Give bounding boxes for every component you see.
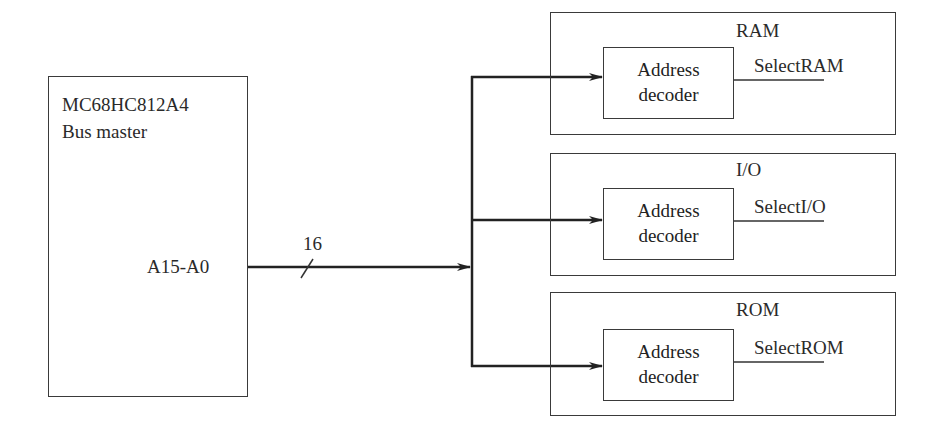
- decoder-label-line1: Address: [604, 57, 733, 82]
- bus-width-slash: [301, 259, 313, 278]
- bus-width-label: 16: [303, 233, 322, 255]
- address-port-label: A15-A0: [147, 256, 209, 278]
- decoder-label-line2: decoder: [604, 364, 733, 389]
- master-role-label: Bus master: [62, 121, 147, 143]
- decoder-label-line2: decoder: [604, 223, 733, 248]
- select-ram-signal: SelectRAM: [754, 55, 844, 77]
- select-rom-signal: SelectROM: [754, 337, 844, 359]
- master-chip-name: MC68HC812A4: [62, 94, 189, 116]
- io-address-decoder: Address decoder: [603, 188, 734, 260]
- decoder-label-line2: decoder: [604, 82, 733, 107]
- decoder-label-line1: Address: [604, 339, 733, 364]
- io-device-label: I/O: [736, 159, 761, 181]
- select-io-signal: SelectI/O: [754, 196, 826, 218]
- decoder-label-line1: Address: [604, 198, 733, 223]
- ram-device-label: RAM: [736, 20, 779, 42]
- ram-address-decoder: Address decoder: [603, 47, 734, 119]
- rom-device-label: ROM: [736, 299, 779, 321]
- rom-address-decoder: Address decoder: [603, 329, 734, 401]
